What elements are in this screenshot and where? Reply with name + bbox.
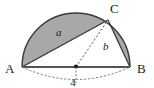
vertex-label-a: A	[5, 61, 15, 76]
shaded-semicircle-minus-triangle	[22, 13, 130, 67]
figure-canvas: A B C a b 4	[0, 0, 154, 88]
vertex-label-b: B	[137, 61, 146, 76]
side-label-b: b	[103, 40, 109, 52]
shaded-region	[22, 13, 130, 67]
geometry-figure: A B C a b 4	[0, 0, 154, 88]
side-label-a: a	[56, 26, 62, 38]
vertex-label-c: C	[110, 1, 119, 16]
measure-label-bottom: 4	[70, 76, 76, 88]
